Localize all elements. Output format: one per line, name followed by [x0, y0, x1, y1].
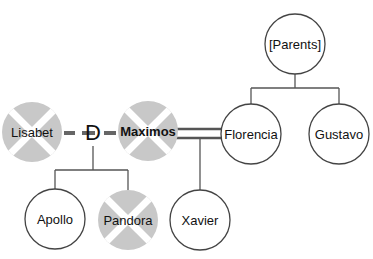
- marriage-relation-line: [176, 129, 222, 138]
- person-florencia[interactable]: Florencia: [221, 104, 281, 164]
- person-maximos[interactable]: Maximos: [118, 101, 178, 161]
- parents-children-connector: [251, 74, 339, 104]
- svg-text:Xavier: Xavier: [182, 213, 220, 228]
- svg-text:Pandora: Pandora: [103, 213, 153, 228]
- family-tree-diagram: D [Parents] Florencia Gustavo Lisabet: [0, 0, 373, 259]
- person-xavier[interactable]: Xavier: [170, 190, 230, 250]
- svg-text:Maximos: Maximos: [120, 124, 176, 139]
- divorce-marker: D: [85, 120, 101, 145]
- person-apollo[interactable]: Apollo: [25, 189, 85, 249]
- person-parents[interactable]: [Parents]: [265, 14, 325, 74]
- svg-text:[Parents]: [Parents]: [269, 37, 321, 52]
- person-gustavo[interactable]: Gustavo: [309, 104, 369, 164]
- person-lisabet[interactable]: Lisabet: [2, 102, 62, 162]
- lisabet-maximos-children-connector: [55, 146, 128, 190]
- svg-text:Gustavo: Gustavo: [315, 127, 363, 142]
- svg-text:Florencia: Florencia: [224, 127, 278, 142]
- svg-text:Apollo: Apollo: [37, 212, 73, 227]
- svg-text:Lisabet: Lisabet: [11, 125, 53, 140]
- person-pandora[interactable]: Pandora: [98, 190, 158, 250]
